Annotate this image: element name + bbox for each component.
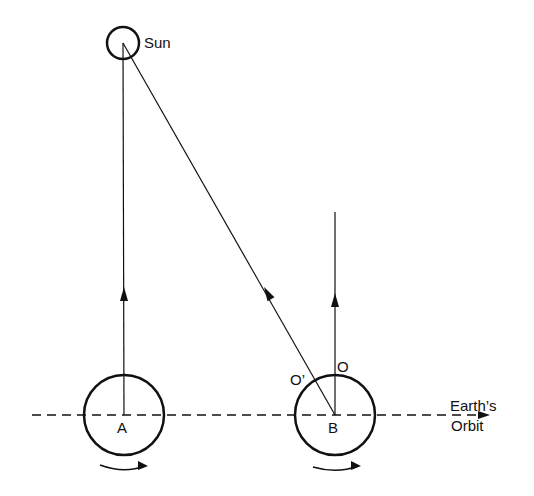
orbit-label-line2: Orbit [451,417,484,434]
sun-to-b-line [123,43,335,415]
point-b-label: B [328,419,338,436]
earth-b: B O O’ [290,358,375,470]
point-o-prime-label: O’ [290,371,305,388]
sun-to-a-line [123,43,124,415]
sun: Sun [107,27,171,59]
sun-label: Sun [144,34,171,51]
rotation-arrowhead-icon-a [138,461,148,470]
arrow-up-icon-b [331,293,339,307]
point-o-label: O [337,358,349,375]
rotation-arrowhead-icon-b [351,461,361,470]
orbit-label-line1: Earth’s [450,397,496,414]
sidereal-solar-day-diagram: Sun A B O O’ Earth’s Orbit [0,0,534,496]
point-a-label: A [117,419,127,436]
arrow-up-icon-a [120,287,128,301]
